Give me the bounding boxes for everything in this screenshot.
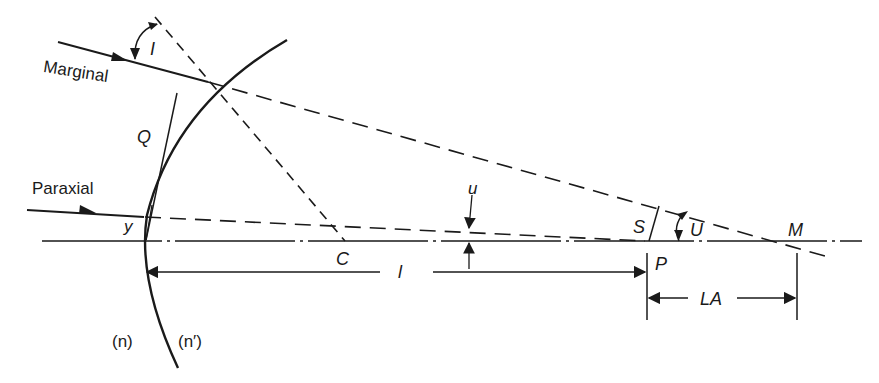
point-P-label: P	[655, 255, 667, 273]
marginal-refracted-ray	[208, 82, 832, 258]
height-y-label: y	[124, 218, 133, 235]
index-n-label: (n)	[112, 333, 133, 350]
distance-l-label: l	[398, 263, 402, 281]
point-S-label: S	[633, 218, 645, 236]
angle-I-arrow-top-icon	[148, 22, 158, 30]
point-M-label: M	[788, 221, 803, 239]
paraxial-label: Paraxial	[32, 180, 93, 197]
paraxial-ray-arrow-icon	[79, 205, 96, 214]
paraxial-refracted-ray	[145, 217, 645, 241]
index-n-prime-label: (n′)	[178, 333, 202, 350]
u-indicator-top	[469, 195, 472, 228]
center-C-label: C	[336, 250, 349, 268]
angle-u-label: u	[468, 180, 477, 197]
angle-U-arrow-bottom-icon	[674, 230, 683, 240]
optics-diagram: Marginal Paraxial I Q y C u l S U M P LA…	[0, 0, 879, 383]
surface-normal	[155, 17, 345, 241]
point-Q-label: Q	[137, 128, 151, 146]
angle-I-arrow-bottom-icon	[130, 48, 140, 60]
angle-U-arrow-top-icon	[677, 211, 688, 220]
LA-label: LA	[700, 290, 722, 308]
angle-U-label: U	[690, 221, 703, 239]
S-line	[649, 206, 659, 241]
marginal-ray-arrow-icon	[111, 52, 128, 61]
angle-I-label: I	[150, 40, 155, 58]
diagram-canvas	[0, 0, 879, 383]
